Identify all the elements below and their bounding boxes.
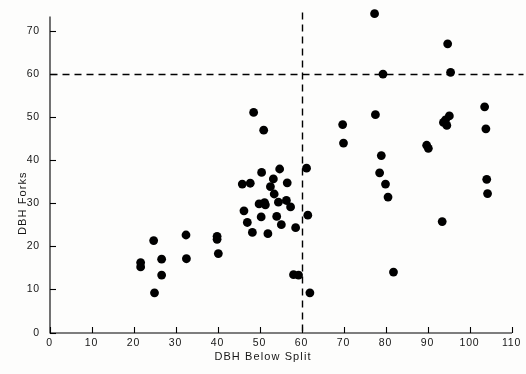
- x-axis-title: DBH Below Split: [0, 350, 526, 362]
- x-tick-label-70: 70: [324, 336, 364, 348]
- x-tick-label-10: 10: [72, 336, 112, 348]
- y-tick-label-30: 30: [10, 196, 40, 208]
- y-tick-label-40: 40: [10, 153, 40, 165]
- y-tick-label-10: 10: [10, 282, 40, 294]
- y-tick-label-20: 20: [10, 239, 40, 251]
- x-tick-label-0: 0: [30, 336, 70, 348]
- x-tick-label-50: 50: [240, 336, 280, 348]
- x-tick-label-60: 60: [282, 336, 322, 348]
- x-tick-label-90: 90: [408, 336, 448, 348]
- y-tick-label-70: 70: [10, 24, 40, 36]
- y-tick-label-60: 60: [10, 67, 40, 79]
- x-tick-label-30: 30: [156, 336, 196, 348]
- x-tick-label-20: 20: [114, 336, 154, 348]
- plot-drawing-area: [0, 0, 526, 374]
- x-tick-label-40: 40: [198, 336, 238, 348]
- scatter-plot-figure: DBH Forks DBH Below Split 01020304050607…: [0, 0, 526, 374]
- x-tick-label-80: 80: [366, 336, 406, 348]
- x-tick-label-100: 100: [450, 336, 490, 348]
- x-tick-label-110: 110: [492, 336, 526, 348]
- y-tick-label-50: 50: [10, 110, 40, 122]
- y-tick-label-0: 0: [10, 326, 40, 338]
